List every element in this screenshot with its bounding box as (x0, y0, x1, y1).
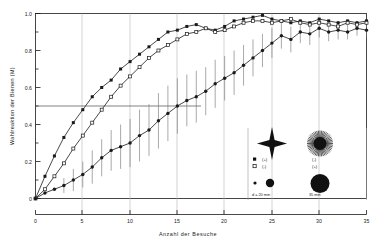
data-point (242, 21, 245, 24)
data-point (34, 197, 37, 200)
data-point (110, 95, 113, 98)
data-point (223, 77, 226, 80)
data-point (138, 53, 141, 56)
legend-right-text-2: (+) (312, 164, 318, 169)
x-tick-label: 30 (316, 218, 322, 224)
data-point (53, 188, 56, 191)
data-point (337, 25, 340, 28)
data-point (327, 23, 330, 26)
data-point (365, 28, 368, 31)
data-point (176, 29, 179, 32)
data-point (213, 82, 216, 85)
x-tick-label: 10 (127, 218, 133, 224)
data-point (62, 162, 65, 165)
data-point (204, 27, 207, 30)
data-point (261, 14, 264, 17)
data-point (110, 79, 113, 82)
data-point (223, 29, 226, 32)
x-tick-label: 0 (34, 218, 37, 224)
data-point (261, 49, 264, 52)
data-point (176, 104, 179, 107)
data-point (138, 66, 141, 69)
data-point (91, 165, 94, 168)
figure-container: 1.0 0.8 0.6 0.4 0.2 0 Wahlreaktion der B… (0, 0, 377, 241)
data-point (233, 25, 236, 28)
data-point (318, 21, 321, 24)
data-point (62, 136, 65, 139)
data-point (251, 56, 254, 59)
data-point (261, 19, 264, 22)
y-tick-label: 0.2 (25, 159, 32, 165)
data-point (185, 99, 188, 102)
y-tick-label: 0.8 (25, 48, 32, 54)
data-point (308, 32, 311, 35)
data-point (242, 18, 245, 21)
data-point (53, 175, 56, 178)
data-point (346, 30, 349, 33)
data-point (289, 38, 292, 41)
x-axis-label: Anzahl der Besuche (159, 231, 217, 237)
data-point (72, 178, 75, 181)
data-point (43, 175, 46, 178)
data-point (195, 23, 198, 26)
data-point (91, 121, 94, 124)
data-point (147, 45, 150, 48)
y-tick-label: 0.4 (25, 122, 32, 128)
y-tick-labels: 1.0 0.8 0.6 0.4 0.2 0 (25, 11, 32, 202)
data-point (62, 184, 65, 187)
data-point (81, 173, 84, 176)
data-point (280, 19, 283, 22)
data-point (100, 86, 103, 89)
legend-right-text-1: (-) (312, 157, 317, 162)
data-point (119, 68, 122, 71)
data-point (157, 49, 160, 52)
data-point (91, 95, 94, 98)
data-point (270, 41, 273, 44)
data-point (185, 25, 188, 28)
data-point (289, 18, 292, 21)
y-tick-label: 1.0 (25, 11, 32, 17)
data-point (299, 30, 302, 33)
bee-choice-reaction-chart: 1.0 0.8 0.6 0.4 0.2 0 Wahlreaktion der B… (0, 0, 377, 241)
data-point (214, 31, 217, 34)
data-point (128, 141, 131, 144)
data-point (270, 18, 273, 21)
data-point (233, 19, 236, 22)
x-tick-label: 5 (81, 218, 84, 224)
data-point (100, 156, 103, 159)
x-tick-labels: 0 5 10 15 20 25 30 35 (34, 218, 369, 224)
data-point (166, 43, 169, 46)
data-point (232, 71, 235, 74)
data-point (270, 21, 273, 24)
data-point (72, 147, 75, 150)
data-point (100, 108, 103, 111)
data-point (166, 112, 169, 115)
data-point (157, 119, 160, 122)
data-point (138, 134, 141, 137)
data-point (119, 84, 122, 87)
data-point (81, 134, 84, 137)
data-point (336, 28, 339, 31)
x-tick-label: 35 (364, 218, 370, 224)
data-point (289, 21, 292, 24)
sunburst-star-icon (307, 131, 333, 157)
size-label-right: 35 mm (309, 193, 321, 197)
y-tick-label: 0 (29, 196, 32, 202)
data-point (185, 32, 188, 35)
data-point (195, 31, 198, 34)
legend-left-text-2: (-) (262, 164, 267, 169)
data-point (129, 75, 132, 78)
data-point (204, 90, 207, 93)
data-point (147, 56, 150, 59)
data-point (147, 128, 150, 131)
legend-left-text-1: (+) (262, 157, 268, 162)
data-point (119, 145, 122, 148)
data-point (346, 21, 349, 24)
data-point (365, 21, 368, 24)
size-label-left: d = 20 mm (252, 193, 270, 197)
y-tick-label: 0.6 (25, 85, 32, 91)
data-point (157, 38, 160, 41)
data-point (81, 108, 84, 111)
data-point (356, 23, 359, 26)
data-point (355, 27, 358, 30)
